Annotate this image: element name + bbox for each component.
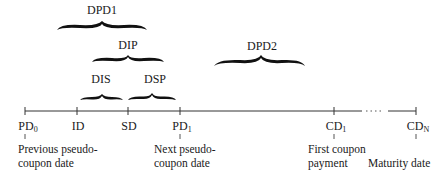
label-dis: DIS <box>91 73 110 86</box>
tick-label-cdn: CDN <box>407 120 429 136</box>
description-line: First coupon <box>308 142 366 156</box>
description-cd1: First coupon payment <box>308 142 366 170</box>
brace-dsp <box>128 93 176 100</box>
brace-dpd2 <box>214 55 305 66</box>
description-cdn: Maturity date <box>368 156 430 170</box>
tick-label-pd0: PD0 <box>18 120 37 136</box>
label-dsp: DSP <box>144 73 166 86</box>
brace-dpd1 <box>57 21 147 30</box>
description-line: Maturity date <box>368 156 430 170</box>
description-line: payment <box>308 156 366 170</box>
description-line: coupon date <box>154 156 216 170</box>
tick-label-sd: SD <box>121 120 136 133</box>
description-pd0: Previous pseudo- coupon date <box>18 142 98 170</box>
brace-dis <box>80 94 123 100</box>
tick-label-pd1: PD1 <box>172 120 191 136</box>
description-line: Next pseudo- <box>154 142 216 156</box>
description-pd1: Next pseudo- coupon date <box>154 142 216 170</box>
label-dpd2: DPD2 <box>247 40 277 53</box>
description-line: Previous pseudo- <box>18 142 98 156</box>
tick-label-id: ID <box>72 120 85 133</box>
label-dip: DIP <box>118 39 137 52</box>
brace-dip <box>92 55 164 62</box>
tick-label-cd1: CD1 <box>326 120 347 136</box>
description-line: coupon date <box>18 156 98 170</box>
label-dpd1: DPD1 <box>87 4 117 17</box>
